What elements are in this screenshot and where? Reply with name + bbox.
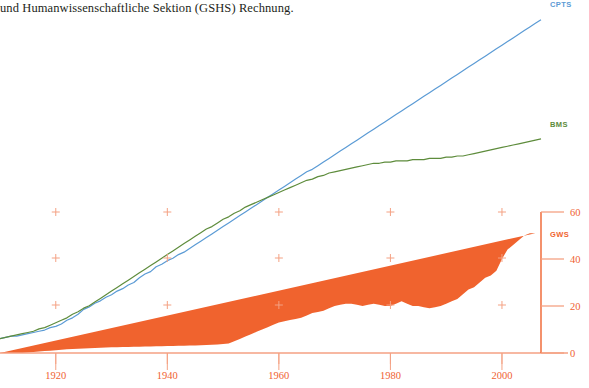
grid-plus-marker (52, 254, 60, 262)
grid-plus-marker (386, 254, 394, 262)
series-label-gws: GWS (550, 230, 569, 239)
chart-svg: 020406019201940196019802000CPTSBMSGWS (0, 0, 589, 388)
x-tick-label: 1980 (380, 370, 401, 381)
y-tick-label: 0 (570, 348, 575, 359)
grid-plus-marker (52, 301, 60, 309)
grid-plus-marker (275, 254, 283, 262)
chart-container: 020406019201940196019802000CPTSBMSGWS (0, 0, 589, 388)
grid-plus-marker (275, 208, 283, 216)
series-label-bms: BMS (550, 120, 568, 129)
x-tick-label: 1920 (45, 370, 66, 381)
grid-plus-marker (163, 208, 171, 216)
grid-plus-marker (386, 208, 394, 216)
series-area-gws (0, 233, 535, 353)
grid-plus-marker (498, 301, 506, 309)
x-tick-label: 1960 (268, 370, 289, 381)
chart-page: und Humanwissenschaftliche Sektion (GSHS… (0, 0, 589, 388)
x-tick-label: 1940 (157, 370, 178, 381)
grid-plus-marker (52, 208, 60, 216)
y-tick-label: 60 (570, 207, 581, 218)
x-tick-label: 2000 (491, 370, 512, 381)
y-tick-label: 20 (570, 301, 581, 312)
series-label-cpts: CPTS (550, 0, 572, 9)
y-tick-label: 40 (570, 254, 581, 265)
grid-plus-marker (163, 254, 171, 262)
grid-plus-marker (498, 208, 506, 216)
grid-plus-marker (163, 301, 171, 309)
